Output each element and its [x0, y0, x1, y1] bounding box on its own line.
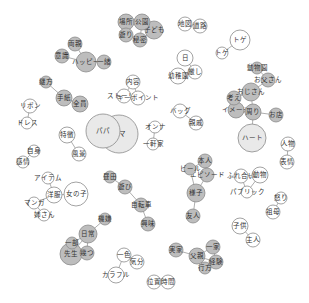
node-n71[interactable]: 実家 — [169, 243, 183, 257]
node-label: お父さん — [254, 76, 282, 84]
node-label: バッグ — [170, 106, 191, 115]
node-n64[interactable]: 子供 — [232, 218, 248, 234]
node-n20[interactable]: 内容 — [126, 75, 140, 89]
word-network-diagram: ママパパハート女の子先生ハッピートゲ子どもおじさん様子日常場所公園日幼稚園手紙全… — [0, 0, 309, 303]
node-n33[interactable]: バッグ — [170, 104, 191, 118]
node-label: 一軒家 — [143, 139, 164, 148]
node-n77[interactable]: 気分 — [130, 255, 144, 269]
node-label: 子供 — [233, 221, 247, 230]
node-n50[interactable]: ふれ合い — [227, 169, 255, 183]
node-n55[interactable]: アイテム — [34, 172, 62, 184]
node-n53[interactable]: 怒り — [274, 192, 288, 204]
node-n57[interactable]: 女の子 — [64, 182, 88, 206]
node-n72[interactable]: 一家 — [206, 240, 220, 254]
node-label: 人物 — [281, 139, 295, 148]
node-n8[interactable]: 両親 — [68, 37, 82, 51]
node-n65[interactable]: 主人 — [246, 233, 260, 247]
node-label: 公園 — [135, 18, 149, 26]
node-label: 祖母 — [266, 207, 280, 216]
node-label: 一緒 — [97, 57, 111, 66]
node-n14[interactable]: 日 — [177, 50, 193, 66]
node-n35[interactable]: パパ — [86, 114, 120, 148]
node-n41[interactable]: 人物 — [281, 137, 295, 151]
node-label: 位置 — [147, 277, 161, 286]
node-n13[interactable]: トゲ — [215, 47, 229, 59]
node-label: 全員 — [73, 99, 87, 108]
node-label: 親戚 — [189, 118, 203, 127]
node-n59[interactable]: 姉さん — [34, 209, 55, 221]
node-n15[interactable]: 厳し — [188, 65, 202, 79]
node-n16[interactable]: 幼稚園 — [168, 68, 189, 84]
node-label: リボン — [20, 102, 41, 110]
node-label: 日 — [182, 54, 189, 62]
node-n28[interactable]: 周り — [245, 104, 261, 120]
node-n39[interactable]: オンナ — [145, 121, 166, 133]
node-label: 秘密 — [133, 35, 147, 44]
node-label: キーポイント — [117, 94, 159, 102]
node-label: 動物 — [253, 170, 267, 179]
node-n23[interactable]: 動物園 — [247, 62, 268, 74]
node-n37[interactable]: 特徴 — [59, 127, 75, 143]
node-n11[interactable]: 一緒 — [97, 55, 111, 69]
node-n40[interactable]: 一軒家 — [143, 138, 164, 150]
node-label: カラフル — [102, 271, 130, 279]
node-n73[interactable]: 父親 — [189, 248, 205, 264]
node-n29[interactable]: お店 — [269, 108, 283, 122]
node-label: 姉さん — [34, 210, 55, 219]
node-n43[interactable]: 自身 — [27, 145, 41, 157]
node-n38[interactable]: 風景 — [72, 147, 86, 161]
node-n10[interactable]: ハッピー — [72, 52, 100, 72]
node-label: 一部 — [65, 238, 79, 247]
node-n54[interactable]: 祖母 — [266, 205, 280, 219]
node-n67[interactable]: 日常 — [79, 225, 97, 243]
node-n80[interactable]: 時間 — [161, 275, 175, 289]
node-n49[interactable]: 友人 — [186, 209, 200, 223]
node-n62[interactable]: 自転車 — [131, 198, 152, 212]
node-n76[interactable]: 一色 — [117, 248, 131, 262]
node-n52[interactable]: パブリック — [230, 186, 265, 198]
node-n44[interactable]: 感情 — [16, 156, 30, 168]
node-label: 道路 — [193, 21, 207, 30]
node-label: 考え — [227, 94, 241, 102]
node-label: 動物園 — [247, 63, 268, 72]
node-label: 様子 — [189, 188, 203, 197]
node-label: 表情 — [280, 157, 294, 166]
node-label: 実家 — [169, 245, 183, 254]
node-n18[interactable]: 手紙 — [56, 90, 72, 106]
node-label: 特徴 — [60, 130, 74, 139]
node-n26[interactable]: 考え — [227, 91, 241, 105]
node-n12[interactable]: トゲ — [230, 30, 250, 50]
node-n56[interactable]: 洋服 — [46, 187, 62, 203]
node-label: 機嫌 — [98, 214, 112, 223]
node-n79[interactable]: 位置 — [147, 275, 161, 289]
node-n5[interactable]: 秘密 — [133, 33, 147, 47]
node-label: マンガ — [24, 198, 45, 207]
node-n6[interactable]: 地図 — [178, 17, 192, 31]
node-n75[interactable]: 行方 — [198, 262, 212, 274]
node-n61[interactable]: 遊び — [118, 180, 132, 194]
node-n78[interactable]: カラフル — [102, 267, 130, 283]
node-label: 友人 — [186, 211, 200, 220]
node-n48[interactable]: 様子 — [187, 184, 205, 202]
node-n34[interactable]: 親戚 — [189, 116, 203, 130]
node-n24[interactable]: お父さん — [254, 73, 282, 87]
node-n58[interactable]: マンガ — [24, 197, 45, 209]
node-label: 日常 — [81, 229, 95, 238]
node-n42[interactable]: 表情 — [280, 155, 294, 169]
node-label: おじさん — [237, 88, 265, 96]
node-n60[interactable]: 昼田 — [103, 171, 117, 183]
node-label: パパ — [96, 127, 110, 135]
node-label: ビール — [180, 164, 201, 173]
node-n63[interactable]: 興味 — [141, 217, 155, 231]
node-n4[interactable]: 遊り — [119, 28, 133, 42]
node-n7[interactable]: 道路 — [193, 19, 207, 33]
node-n30[interactable]: ハート — [238, 124, 266, 152]
node-n31[interactable]: リボン — [20, 99, 41, 113]
node-n19[interactable]: 全員 — [72, 96, 88, 112]
node-n2[interactable]: 公園 — [134, 14, 150, 30]
node-label: 幼稚園 — [168, 71, 189, 80]
node-n9[interactable]: 意識 — [55, 49, 69, 63]
node-n70[interactable]: 幾つ — [80, 246, 94, 260]
node-n32[interactable]: ドレス — [17, 117, 38, 129]
node-label: 内容 — [126, 77, 140, 86]
